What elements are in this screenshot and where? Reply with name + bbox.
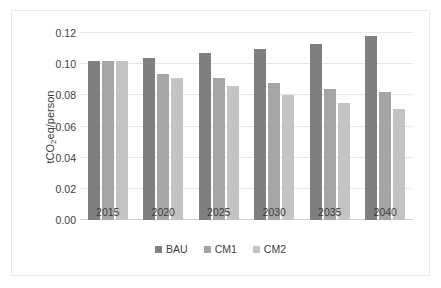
y-axis-tick-label: 0.02: [30, 183, 76, 195]
plot-area: [80, 33, 413, 220]
bar-bau-2015: [88, 61, 100, 220]
x-axis-tick-label: 2040: [374, 206, 397, 218]
y-axis-tick-label: 0.08: [30, 89, 76, 101]
bar-cm2-2035: [338, 103, 350, 220]
x-axis-tick-label: 2025: [207, 206, 230, 218]
y-axis-tick-label: 0.04: [30, 152, 76, 164]
legend-item-bau[interactable]: BAU: [155, 243, 188, 255]
bar-cm1-2015: [102, 61, 114, 220]
bar-cm1-2025: [213, 78, 225, 220]
bar-group: [302, 33, 358, 220]
bar-cm1-2040: [379, 92, 391, 220]
chart-frame: tCO2eq/person 0.000.020.040.060.080.100.…: [11, 10, 430, 276]
bar-cm2-2040: [393, 109, 405, 220]
y-axis-tick-label: 0.12: [30, 27, 76, 39]
y-axis-tick-label: 0.06: [30, 121, 76, 133]
y-axis-tick-label: 0.10: [30, 58, 76, 70]
chart-legend: BAUCM1CM2: [12, 243, 429, 255]
legend-swatch-icon: [253, 246, 260, 253]
bar-cm2-2030: [282, 95, 294, 220]
bar-group: [136, 33, 192, 220]
y-axis-tick-label: 0.00: [30, 214, 76, 226]
legend-label: BAU: [166, 243, 188, 255]
y-axis-tick-labels: 0.000.020.040.060.080.100.12: [26, 33, 76, 220]
bar-cm1-2030: [268, 83, 280, 220]
bar-cm1-2020: [157, 74, 169, 220]
bar-cm2-2025: [227, 86, 239, 220]
bar-cm1-2035: [324, 89, 336, 220]
legend-label: CM2: [264, 243, 286, 255]
x-axis-tick-label: 2020: [152, 206, 175, 218]
bar-bau-2035: [310, 44, 322, 220]
bar-group: [247, 33, 303, 220]
bar-group: [80, 33, 136, 220]
legend-label: CM1: [215, 243, 237, 255]
bar-cm2-2015: [116, 61, 128, 220]
legend-swatch-icon: [155, 246, 162, 253]
legend-item-cm1[interactable]: CM1: [204, 243, 237, 255]
bar-bau-2020: [143, 58, 155, 220]
bar-bau-2025: [199, 53, 211, 220]
x-axis-tick-label: 2030: [263, 206, 286, 218]
bar-group: [358, 33, 414, 220]
x-axis-tick-label: 2015: [96, 206, 119, 218]
bar-cm2-2020: [171, 78, 183, 220]
legend-swatch-icon: [204, 246, 211, 253]
x-axis-tick-label: 2035: [318, 206, 341, 218]
bar-bau-2040: [365, 36, 377, 220]
bar-group: [191, 33, 247, 220]
legend-item-cm2[interactable]: CM2: [253, 243, 286, 255]
bar-bau-2030: [254, 49, 266, 220]
